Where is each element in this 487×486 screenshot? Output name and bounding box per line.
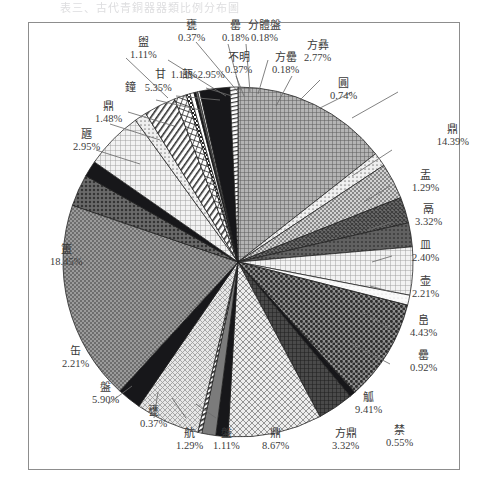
slice-label-zun-443: 峊 4.43% <box>410 315 437 339</box>
slice-label-pct: 2.40% <box>412 252 439 264</box>
slice-label-he-111: 盥 1.11% <box>130 37 157 61</box>
slice-label-gan-111: 甘 1.11% <box>155 69 197 81</box>
slice-label-name: 罍 <box>222 20 249 32</box>
slice-label-pct: 2.95% <box>198 69 225 80</box>
slice-label-pct: 18.45% <box>50 256 82 268</box>
slice-label-name: 鼎 <box>262 428 289 440</box>
slice-label-yan-295: 甅 2.95% <box>73 129 100 153</box>
slice-label-name: 圓 <box>330 78 357 90</box>
slice-label-ding-148: 鼎 1.48% <box>95 101 122 125</box>
slice-label-yuan-074: 圓 0.74% <box>330 78 357 102</box>
slice-label-pct: 1.29% <box>176 440 203 452</box>
slice-label-fenti-018: 分體盤 0.18% <box>248 20 281 44</box>
slice-label-hang-129: 航 1.29% <box>176 428 203 452</box>
slice-label-name: 方鼎 <box>332 428 359 440</box>
slice-label-pct: 2.21% <box>62 358 89 370</box>
slice-label-name: 方罍 <box>272 52 299 64</box>
slice-label-name: 盤 <box>213 428 240 440</box>
slice-label-pct: 1.29% <box>412 182 439 194</box>
slice-label-fangyi2-277: 方彝 2.77% <box>304 40 331 64</box>
slice-label-pct: 5.35% <box>145 82 172 93</box>
slice-label-pct: 0.37% <box>178 32 205 44</box>
slice-label-name: 鬲 <box>415 204 442 216</box>
slice-label-yi-092: 罍 0.92% <box>410 350 437 374</box>
slice-label-name: 罍 <box>410 350 437 362</box>
slice-label-name: 分體盤 <box>248 20 281 32</box>
slice-label-name: 盂 <box>412 170 439 182</box>
slice-label-pct: 0.37% <box>140 418 167 430</box>
slice-label-name: 甕 <box>178 20 205 32</box>
slice-label-gui-1845: 簠 18.45% <box>50 244 82 268</box>
slice-label-pct: 1.11% <box>130 49 157 61</box>
slice-label-pct: 0.74% <box>330 90 357 102</box>
leader-line <box>352 92 398 118</box>
slice-label-pct: 2.95% <box>73 141 100 153</box>
slice-label-name: 盤 <box>92 382 119 394</box>
slice-label-pct: 4.43% <box>410 327 437 339</box>
slice-label-name: 禁 <box>386 425 413 437</box>
slice-label-pct: 0.18% <box>248 32 281 44</box>
slice-label-ding-1439: 鼎 14.39% <box>437 124 469 148</box>
slice-label-yi2-018: 罍 0.18% <box>222 20 249 44</box>
slice-label-zhan2-037: 甕 0.37% <box>178 20 205 44</box>
slice-label-name: 鐘 <box>125 81 136 94</box>
slice-label-pct: 2.21% <box>412 288 439 300</box>
slice-label-name: 方彝 <box>304 40 331 52</box>
slice-label-pct: 0.18% <box>222 32 249 44</box>
slice-label-pct: 0.92% <box>410 362 437 374</box>
slice-label-hu-221: 壶 2.21% <box>412 276 439 300</box>
slice-label-pct: 3.32% <box>415 216 442 228</box>
slice-label-name: 觚 <box>355 392 382 404</box>
slice-label-jin-055: 禁 0.55% <box>386 425 413 449</box>
slice-label-zhan-037: 甕 0.37% <box>140 406 167 430</box>
slice-label-name: 鼎 <box>437 124 469 136</box>
slice-label-pct: 14.39% <box>437 136 469 148</box>
slice-label-pct: 2.77% <box>304 52 331 64</box>
slice-label-jue-941: 觚 9.41% <box>355 392 382 416</box>
slice-label-you-129: 盂 1.29% <box>412 170 439 194</box>
slice-label-fou-221: 缶 2.21% <box>62 346 89 370</box>
slice-label-zhong-535: 鐘 5.35% <box>125 82 172 94</box>
slice-label-pct: 5.90% <box>92 394 119 406</box>
slice-label-name: 甅 <box>73 129 100 141</box>
slice-label-pan-111: 盤 1.11% <box>213 428 240 452</box>
slice-label-unknown-037: 不明 0.37% <box>225 52 252 76</box>
slice-label-name: 甘 <box>155 68 166 81</box>
slice-label-pct: 3.32% <box>332 440 359 452</box>
slice-label-pct: 0.18% <box>272 64 299 76</box>
slice-label-name: 鼎 <box>95 101 122 113</box>
slice-label-name: 盥 <box>130 37 157 49</box>
slice-label-pct: 0.37% <box>225 64 252 76</box>
slice-label-pct: 8.67% <box>262 440 289 452</box>
slice-label-fangding-332: 方鼎 3.32% <box>332 428 359 452</box>
slice-label-pct: 9.41% <box>355 404 382 416</box>
slice-label-fangyi-018: 方罍 0.18% <box>272 52 299 76</box>
slice-label-ge-332: 鬲 3.32% <box>415 204 442 228</box>
slice-label-pct: 1.11% <box>213 440 240 452</box>
slice-label-name: 壶 <box>412 276 439 288</box>
slice-label-pct: 1.48% <box>95 113 122 125</box>
leader-line <box>300 80 320 100</box>
slice-label-name: 甕 <box>140 406 167 418</box>
slice-label-name: 皿 <box>412 240 439 252</box>
slice-label-pct: 0.55% <box>386 437 413 449</box>
slice-label-min-240: 皿 2.40% <box>412 240 439 264</box>
slice-label-name: 缶 <box>62 346 89 358</box>
slice-label-ding-867: 鼎 8.67% <box>262 428 289 452</box>
slice-label-name: 簠 <box>50 244 82 256</box>
slice-label-pan-590: 盤 5.90% <box>92 382 119 406</box>
slice-label-pct: 1.11% <box>171 69 198 80</box>
slice-label-name: 峊 <box>410 315 437 327</box>
slice-label-name: 航 <box>176 428 203 440</box>
slice-label-name: 不明 <box>225 52 252 64</box>
